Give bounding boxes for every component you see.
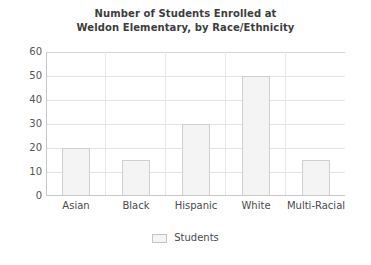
legend-swatch-students <box>152 234 167 243</box>
x-tick-label-black: Black <box>106 199 166 212</box>
bar-white <box>242 76 270 196</box>
x-tick-label-white: White <box>226 199 286 212</box>
gridline-50 <box>46 76 345 77</box>
gridline-60 <box>46 52 345 53</box>
x-tick-label-multi-racial: Multi-Racial <box>285 199 347 212</box>
y-tick-label: 50 <box>4 71 42 81</box>
y-axis-line <box>46 52 47 196</box>
y-tick-label: 60 <box>4 47 42 57</box>
bar-asian <box>62 148 90 196</box>
x-axis-tick-labels: Asian Black Hispanic White Multi-Racial <box>46 199 345 215</box>
chart-legend: Students <box>0 232 371 244</box>
category-separator <box>225 52 226 196</box>
chart-title-line-2: Weldon Elementary, by Race/Ethnicity <box>0 21 371 35</box>
y-tick-label: 30 <box>4 119 42 129</box>
gridline-40 <box>46 100 345 101</box>
y-tick-label: 40 <box>4 95 42 105</box>
x-axis-line <box>46 195 345 196</box>
x-tick-label-hispanic: Hispanic <box>166 199 226 212</box>
bar-black <box>122 160 150 196</box>
bar-multi-racial <box>302 160 330 196</box>
legend-label-students: Students <box>174 232 219 244</box>
chart-title: Number of Students Enrolled at Weldon El… <box>0 7 371 35</box>
plot-area <box>46 52 345 196</box>
y-axis-tick-labels: 60 50 40 30 20 10 0 <box>0 52 42 196</box>
x-tick-label-asian: Asian <box>46 199 106 212</box>
y-tick-label: 10 <box>4 167 42 177</box>
category-separator <box>285 52 286 196</box>
chart-title-line-1: Number of Students Enrolled at <box>0 7 371 21</box>
bar-hispanic <box>182 124 210 196</box>
y-tick-label: 0 <box>4 191 42 201</box>
category-separator <box>165 52 166 196</box>
category-separator <box>105 52 106 196</box>
y-tick-label: 20 <box>4 143 42 153</box>
bar-chart: Number of Students Enrolled at Weldon El… <box>0 0 371 265</box>
